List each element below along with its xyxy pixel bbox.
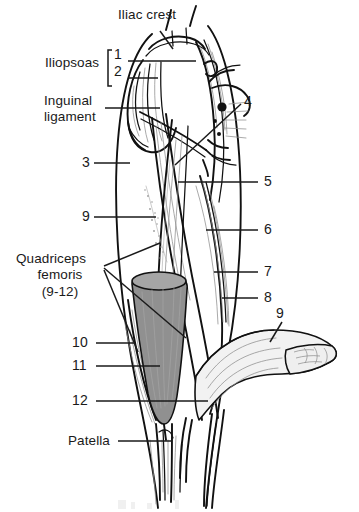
label-iliopsoas-item-1: 1 xyxy=(114,47,122,63)
label-number-6: 6 xyxy=(264,222,272,238)
label-quadriceps-line2: femoris xyxy=(16,267,104,283)
label-number-8: 8 xyxy=(264,290,272,306)
label-number-5: 5 xyxy=(264,174,272,190)
label-quadriceps-line3: (9-12) xyxy=(16,284,104,300)
label-number-3: 3 xyxy=(82,155,90,171)
anatomy-figure: .o{fill:none;stroke:#111;stroke-width:1.… xyxy=(0,0,359,512)
label-number-9-right: 9 xyxy=(276,306,284,322)
label-iliopsoas-item-2: 2 xyxy=(114,64,122,80)
label-number-10: 10 xyxy=(72,335,88,351)
label-iliopsoas: Iliopsoas xyxy=(45,55,99,71)
label-inguinal-ligament-line1: Inguinal xyxy=(44,93,92,109)
label-patella: Patella xyxy=(68,433,110,449)
label-number-11: 11 xyxy=(72,358,87,374)
bottom-cutoff-text xyxy=(118,500,179,509)
label-inguinal-ligament-line2: ligament xyxy=(44,109,96,125)
label-number-7: 7 xyxy=(264,264,272,280)
iliopsoas-bracket xyxy=(108,50,112,86)
label-number-4: 4 xyxy=(244,94,252,110)
label-quadriceps-line1: Quadriceps xyxy=(16,251,86,267)
label-number-9-left: 9 xyxy=(82,209,90,225)
label-iliac-crest: Iliac crest xyxy=(118,7,176,23)
label-number-12: 12 xyxy=(72,393,88,409)
